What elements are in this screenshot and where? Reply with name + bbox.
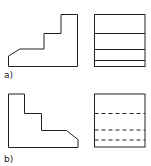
panel-a-front-view: [9, 15, 78, 67]
panel-b-side-view: [95, 94, 146, 147]
panel-a-label: a): [4, 70, 13, 80]
panel-b-front-view: [9, 94, 79, 148]
panel-a: a): [4, 15, 145, 81]
orthographic-views-figure: a) b): [0, 0, 151, 166]
panel-b: b): [4, 94, 145, 164]
panel-a-side-view: [95, 15, 146, 67]
panel-b-label: b): [4, 154, 13, 164]
